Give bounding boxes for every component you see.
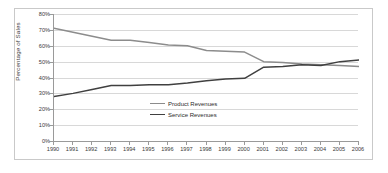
x-axis-tick-label: 2006 bbox=[352, 146, 364, 152]
legend-item-product-revenues: Product Revenues bbox=[150, 98, 217, 109]
legend-swatch-product-revenues bbox=[150, 103, 165, 104]
x-axis-tick-mark bbox=[320, 141, 321, 145]
x-axis-tick-mark bbox=[129, 141, 130, 145]
x-axis-tick-label: 2004 bbox=[314, 146, 326, 152]
chart-legend: Product Revenues Service Revenues bbox=[150, 98, 217, 120]
y-axis-tick-label: 60% bbox=[28, 43, 50, 49]
y-axis-tick-label: 50% bbox=[28, 59, 50, 65]
series-line bbox=[54, 28, 359, 66]
x-axis-tick-labels: 1990199119921993199419951996199719981999… bbox=[53, 146, 358, 158]
x-axis-tick-mark bbox=[301, 141, 302, 145]
x-axis-tick-label: 1996 bbox=[161, 146, 173, 152]
y-axis-tick-label: 80% bbox=[28, 11, 50, 17]
x-axis-tick-label: 2003 bbox=[295, 146, 307, 152]
y-axis-tick-label: 40% bbox=[28, 75, 50, 81]
x-axis-tick-label: 1993 bbox=[104, 146, 116, 152]
x-axis-tick-mark bbox=[225, 141, 226, 145]
x-axis-tick-label: 2002 bbox=[276, 146, 288, 152]
x-axis-tick-mark bbox=[148, 141, 149, 145]
x-axis-tick-label: 2000 bbox=[237, 146, 249, 152]
x-axis-tick-label: 2001 bbox=[256, 146, 268, 152]
y-axis-tick-label: 30% bbox=[28, 90, 50, 96]
y-axis-tick-label: 20% bbox=[28, 106, 50, 112]
x-axis-tick-mark bbox=[263, 141, 264, 145]
x-axis-tick-label: 2005 bbox=[333, 146, 345, 152]
x-axis-tick-label: 1990 bbox=[47, 146, 59, 152]
x-axis-tick-mark bbox=[72, 141, 73, 145]
legend-item-service-revenues: Service Revenues bbox=[150, 109, 217, 120]
legend-label-product-revenues: Product Revenues bbox=[168, 101, 217, 107]
plot-area bbox=[53, 14, 358, 141]
x-axis-tick-label: 1997 bbox=[180, 146, 192, 152]
series-lines bbox=[54, 14, 359, 141]
x-axis-tick-mark bbox=[339, 141, 340, 145]
y-axis-tick-label: 70% bbox=[28, 27, 50, 33]
x-axis-tick-mark bbox=[186, 141, 187, 145]
x-axis-tick-mark bbox=[110, 141, 111, 145]
y-axis-tick-label: 10% bbox=[28, 122, 50, 128]
y-axis-title: Percentage of Sales bbox=[14, 7, 21, 97]
x-axis-tick-mark bbox=[282, 141, 283, 145]
x-axis-tick-mark bbox=[358, 141, 359, 145]
y-axis-tick-label: 0% bbox=[28, 138, 50, 144]
x-axis-tick-label: 1998 bbox=[199, 146, 211, 152]
legend-swatch-service-revenues bbox=[150, 114, 165, 115]
x-axis-tick-mark bbox=[91, 141, 92, 145]
x-axis-tick-marks bbox=[53, 141, 358, 145]
x-axis-tick-label: 1994 bbox=[123, 146, 135, 152]
x-axis-tick-mark bbox=[167, 141, 168, 145]
x-axis-tick-label: 1999 bbox=[218, 146, 230, 152]
x-axis-tick-label: 1995 bbox=[142, 146, 154, 152]
legend-label-service-revenues: Service Revenues bbox=[168, 112, 217, 118]
x-axis-tick-label: 1992 bbox=[85, 146, 97, 152]
chart-figure: Percentage of Sales 0%10%20%30%40%50%60%… bbox=[0, 0, 388, 173]
series-line bbox=[54, 60, 359, 97]
y-axis-tick-labels: 0%10%20%30%40%50%60%70%80% bbox=[28, 11, 50, 144]
x-axis-tick-mark bbox=[53, 141, 54, 145]
x-axis-tick-mark bbox=[206, 141, 207, 145]
x-axis-tick-mark bbox=[244, 141, 245, 145]
x-axis-tick-label: 1991 bbox=[66, 146, 78, 152]
